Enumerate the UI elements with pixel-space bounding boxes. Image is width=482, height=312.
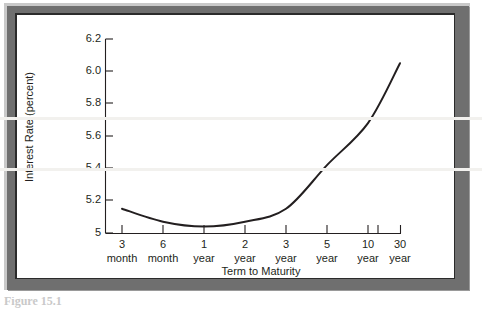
figure-container: Interest Rate (percent) 6.2 6.0 5.8 5.6 … (0, 0, 482, 312)
x-tick-number-10-year: 10 (362, 238, 374, 250)
x-tick-unit-30-year: year (389, 252, 411, 264)
x-tick-number-2-year: 2 (242, 238, 248, 250)
y-tick-label-5-6: 5.6 (86, 129, 101, 141)
chart-plot-canvas: Interest Rate (percent) 6.2 6.0 5.8 5.6 … (17, 15, 454, 278)
x-tick-number-6-month: 6 (160, 238, 166, 250)
x-axis-title: Term to Maturity (222, 265, 301, 277)
x-tick-unit-2-year: year (234, 252, 256, 264)
x-tick-number-3-year: 3 (283, 238, 289, 250)
x-tick-number-3-month: 3 (119, 238, 125, 250)
y-tick-label-6-0: 6.0 (86, 64, 101, 76)
y-tick-label-6-2: 6.2 (86, 32, 101, 44)
y-tick-label-5: 5 (95, 226, 101, 238)
x-tick-unit-3-month: month (107, 252, 138, 264)
x-tick-unit-10-year: year (357, 252, 379, 264)
y-tick-label-5-8: 5.8 (86, 96, 101, 108)
x-tick-number-5-year: 5 (324, 238, 330, 250)
yield-curve-line (122, 63, 400, 226)
x-tick-unit-3-year: year (275, 252, 297, 264)
x-tick-number-1-year: 1 (201, 238, 207, 250)
x-tick-unit-1-year: year (193, 252, 215, 264)
x-axis-tick-units: month month year year year year year yea… (107, 252, 411, 264)
figure-caption-strip: Figure 15.1 (4, 297, 204, 312)
y-tick-label-5-4: 5.4 (86, 161, 101, 173)
x-tick-unit-5-year: year (316, 252, 338, 264)
x-tick-number-30-year: 30 (394, 238, 406, 250)
y-axis-ticks (106, 39, 114, 233)
yield-curve-chart: Interest Rate (percent) 6.2 6.0 5.8 5.6 … (17, 15, 454, 278)
y-axis-title: Interest Rate (percent) (23, 72, 35, 182)
y-axis-tick-labels: 6.2 6.0 5.8 5.6 5.4 5.2 5 (86, 32, 101, 238)
x-axis-tick-numbers: 3 6 1 2 3 5 10 30 (119, 238, 406, 250)
x-tick-unit-6-month: month (148, 252, 179, 264)
x-axis-ticks (122, 225, 378, 234)
figure-caption-text: Figure 15.1 (4, 297, 62, 309)
y-tick-label-5-2: 5.2 (86, 193, 101, 205)
